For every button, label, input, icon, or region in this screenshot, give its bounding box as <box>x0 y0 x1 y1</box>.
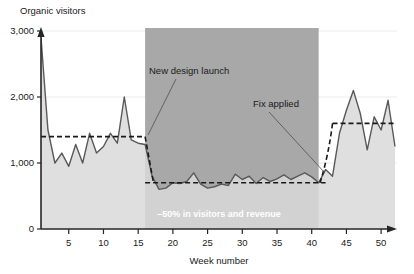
y-axis-title: Organic visitors <box>20 5 86 16</box>
x-tick-label: 15 <box>133 237 144 248</box>
x-axis-title: Week number <box>190 255 249 266</box>
y-axis-ticks: 01,0002,0003,000 <box>10 25 41 234</box>
impact-band-label: –50% in visitors and revenue <box>157 209 281 219</box>
x-axis-ticks: 5101520253035404550 <box>66 229 386 248</box>
y-tick-label: 1,000 <box>10 157 34 168</box>
chart-container: 01,0002,0003,000 5101520253035404550 Org… <box>0 0 414 274</box>
x-tick-label: 45 <box>341 237 352 248</box>
series-layer <box>41 27 395 229</box>
x-tick-label: 30 <box>237 237 248 248</box>
x-tick-label: 10 <box>98 237 109 248</box>
x-tick-label: 20 <box>168 237 179 248</box>
x-tick-label: 35 <box>272 237 283 248</box>
y-axis-arrow <box>37 27 44 37</box>
x-tick-label: 50 <box>376 237 387 248</box>
annotation-label-new-design-launch: New design launch <box>149 65 229 76</box>
organic-visitors-chart: 01,0002,0003,000 5101520253035404550 Org… <box>0 0 414 274</box>
y-tick-label: 3,000 <box>10 25 34 36</box>
x-tick-label: 25 <box>202 237 213 248</box>
y-tick-label: 0 <box>29 223 34 234</box>
annotation-label-fix-applied: Fix applied <box>253 98 299 109</box>
x-tick-label: 40 <box>306 237 317 248</box>
x-tick-label: 5 <box>66 237 71 248</box>
y-tick-label: 2,000 <box>10 91 34 102</box>
